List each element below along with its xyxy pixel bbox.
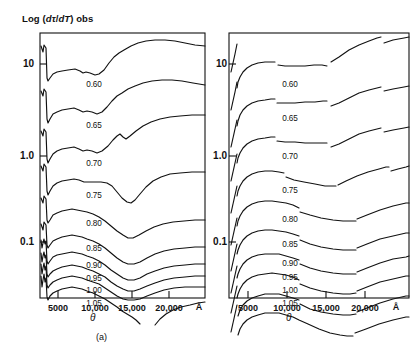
panel-a-caption: (a) xyxy=(96,332,107,342)
panel-a: Log (dτ/dT) obs xyxy=(0,0,209,357)
panel-b-curve-label-0: 0.60 xyxy=(268,80,312,89)
panel-b-curve-0.90-seg1 xyxy=(231,244,237,271)
panel-b-curve-label-8: 1.00 xyxy=(268,286,312,295)
panel-a-curve-label-8: 1.00 xyxy=(72,286,116,295)
panel-b-curve-label-2: 0.70 xyxy=(268,152,312,161)
panel-a-curve-label-9: 1.05 xyxy=(72,299,116,308)
panel-b-curve-0.65-seg1 xyxy=(231,82,237,110)
panel-b-curve-0.65-seg3 xyxy=(277,101,327,103)
panel-a-xaxis-unit: Å xyxy=(192,302,206,312)
panel-a-ytick-1: 1.0 xyxy=(2,150,34,161)
panel-b-ytick-1: 1.0 xyxy=(197,150,227,161)
panel-b-curve-0.60-seg5 xyxy=(384,37,409,43)
panel-a-curve-1.00 xyxy=(41,263,205,300)
panel-b-curve-label-9: 1.05 xyxy=(268,299,312,308)
panel-b-curve-0.70-seg4 xyxy=(331,128,381,147)
panel-b-xtick-20000: 20,000 xyxy=(341,303,389,313)
panel-a-theta-symbol: θ xyxy=(90,312,95,323)
panel-b-curve-label-5: 0.85 xyxy=(268,240,312,249)
panel-a-curve-0.80 xyxy=(41,196,205,238)
panel-a-curve-0.90 xyxy=(41,239,205,280)
panel-b-curves xyxy=(231,37,409,336)
panel-a-curve-0.65 xyxy=(41,80,205,123)
panel-b-curve-0.75-seg5 xyxy=(391,166,409,171)
panel-b-axes-frame xyxy=(229,33,409,298)
panel-b-curve-0.80-seg1 xyxy=(231,186,237,213)
panel-b-curve-0.90-seg4 xyxy=(357,256,409,272)
panel-b-curve-0.75-seg3 xyxy=(286,177,336,186)
panel-a-curve-label-3: 0.75 xyxy=(72,191,116,200)
panel-b-ytick-10: 10 xyxy=(203,58,227,69)
panel-a-curve-label-2: 0.70 xyxy=(72,159,116,168)
panel-b-curve-0.70-seg5 xyxy=(384,127,409,132)
panel-b-curve-0.85-seg1 xyxy=(231,218,237,245)
figure-root: Log (dτ/dT) obs xyxy=(0,0,418,357)
panel-b-curve-label-1: 0.65 xyxy=(268,114,312,123)
panel-a-ytick-10: 10 xyxy=(6,58,34,69)
panel-b-theta-symbol: θ xyxy=(286,312,291,323)
panel-b-curve-label-7: 0.95 xyxy=(268,273,312,282)
panel-a-axes-frame xyxy=(40,33,205,298)
panel-a-curve-label-1: 0.65 xyxy=(72,121,116,130)
panel-a-curve-label-4: 0.80 xyxy=(72,219,116,228)
panel-b-curve-label-6: 0.90 xyxy=(268,259,312,268)
panel-b-curve-0.75-seg1 xyxy=(231,154,237,181)
panel-a-curve-label-5: 0.85 xyxy=(72,244,116,253)
panel-b: Log [Pe−α(H)+α(H)] xyxy=(209,0,418,357)
panel-a-curve-0.85 xyxy=(41,222,205,264)
panel-a-curve-0.95 xyxy=(41,252,205,291)
panel-b-curve-0.80-seg4 xyxy=(357,203,409,219)
panel-a-curve-label-0: 0.60 xyxy=(72,80,116,89)
panel-b-curve-0.70-seg3 xyxy=(277,141,327,143)
panel-b-curve-0.60-seg3 xyxy=(278,65,327,66)
panel-b-curve-0.65-seg5 xyxy=(384,86,409,91)
panel-b-curve-0.70-seg1 xyxy=(231,120,237,147)
panel-a-ytick-01: 0.1 xyxy=(2,236,34,247)
panel-b-curve-0.65-seg4 xyxy=(331,87,381,106)
panel-a-curve-label-7: 0.95 xyxy=(72,274,116,283)
panel-a-curve-0.70 xyxy=(41,115,205,163)
panel-a-curves xyxy=(41,40,205,325)
panel-a-curve-0.75 xyxy=(41,164,205,203)
panel-b-xaxis-unit: Å xyxy=(389,302,403,312)
panel-a-curve-label-6: 0.90 xyxy=(72,261,116,270)
panel-b-curve-0.60-seg1 xyxy=(231,44,237,72)
panel-b-curve-label-4: 0.80 xyxy=(268,215,312,224)
panel-a-xtick-20000: 20,000 xyxy=(145,303,193,313)
panel-b-curve-0.75-seg4 xyxy=(338,167,389,185)
panel-b-ytick-01: 0.1 xyxy=(197,236,227,247)
panel-a-curve-0.60 xyxy=(41,40,205,81)
panel-b-curve-label-3: 0.75 xyxy=(268,186,312,195)
panel-b-curve-1.05-seg2 xyxy=(238,313,353,336)
panel-b-curve-0.95-seg4 xyxy=(357,276,409,291)
panel-b-curve-0.60-seg4 xyxy=(331,37,381,62)
panel-b-curve-0.85-seg4 xyxy=(357,233,409,248)
panel-b-curve-1.05-seg3 xyxy=(355,317,409,333)
